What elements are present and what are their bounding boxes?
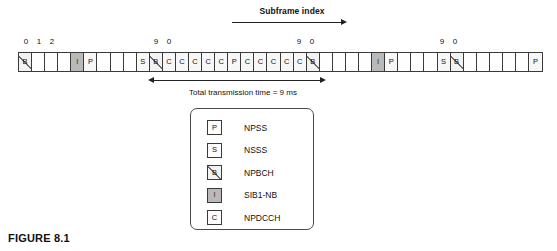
subframe-index-number: 0 [305, 36, 319, 48]
subframe-cell-npss: P [228, 53, 241, 71]
subframe-cell-empty [346, 53, 359, 71]
subframe-cell-npdcch: C [176, 53, 189, 71]
subframe-cell-empty [477, 53, 490, 71]
total-transmission-time-label: Total transmission time = 9 ms [148, 88, 338, 97]
subframe-cell-nsss: S [137, 53, 150, 71]
subframe-cell-npdcch: C [241, 53, 254, 71]
subframe-cell-empty [320, 53, 333, 71]
subframe-cell-npss: P [529, 53, 542, 71]
subframe-index-header: Subframe index [232, 6, 352, 26]
legend-swatch-nsss: S [207, 143, 222, 158]
subframe-cell-empty [333, 53, 346, 71]
subframe-index-number: 0 [19, 36, 33, 48]
legend-label: SIB1-NB [244, 190, 277, 200]
subframe-cell-empty [111, 53, 124, 71]
subframe-cell-npbch: B [451, 53, 464, 71]
subframe-cell-npss: P [385, 53, 398, 71]
legend-item-npdcch: CNPDCCH [207, 207, 313, 228]
subframe-cell-npdcch: C [254, 53, 267, 71]
subframe-index-number: 9 [149, 36, 163, 48]
subframe-cell-empty [424, 53, 437, 71]
legend-label: NPSS [244, 123, 267, 133]
legend-swatch-npbch: B [207, 165, 222, 180]
double-arrow-horizontal-icon [148, 76, 326, 85]
subframe-index-number: 2 [45, 36, 59, 48]
subframe-index-label: Subframe index [232, 6, 352, 16]
legend-swatch-sib1: I [207, 188, 222, 203]
figure-caption: FIGURE 8.1 [8, 232, 70, 244]
legend-item-npbch: BNPBCH [207, 162, 313, 183]
subframe-cell-npbch: B [307, 53, 320, 71]
legend-label: NSSS [244, 145, 267, 155]
legend-swatch-npss: P [207, 120, 222, 135]
subframe-cell-npdcch: C [267, 53, 280, 71]
subframe-cell-npdcch: C [215, 53, 228, 71]
legend: PNPSSSNSSSBNPBCHISIB1-NBCNPDCCH [190, 108, 314, 230]
subframe-cell-npdcch: C [281, 53, 294, 71]
subframe-cell-empty [32, 53, 45, 71]
arrow-shaft [232, 22, 341, 23]
subframe-cell-npdcch: C [189, 53, 202, 71]
subframe-cell-npbch: B [19, 53, 32, 71]
subframe-cell-empty [45, 53, 58, 71]
arrow-head [341, 19, 347, 25]
subframe-cell-nsss: S [438, 53, 451, 71]
subframe-cell-npss: P [84, 53, 97, 71]
subframe-index-number: 9 [292, 36, 306, 48]
subframe-index-number: 9 [435, 36, 449, 48]
subframe-index-number: 0 [162, 36, 176, 48]
subframe-cell-empty [359, 53, 372, 71]
legend-label: NPDCCH [244, 213, 280, 223]
arrow-shaft [153, 80, 321, 81]
legend-item-npss: PNPSS [207, 117, 313, 138]
arrow-right-icon [232, 19, 347, 26]
subframe-cell-empty [411, 53, 424, 71]
subframe-cell-empty [398, 53, 411, 71]
arrow-head-right [320, 77, 326, 83]
subframe-cell-empty [124, 53, 137, 71]
subframe-cell-empty [464, 53, 477, 71]
subframe-cell-empty [503, 53, 516, 71]
subframe-index-numbers: 012909090 [0, 36, 557, 48]
legend-item-sib1-nb: ISIB1-NB [207, 185, 313, 206]
subframe-index-number: 0 [448, 36, 462, 48]
subframe-cell-sib1: I [372, 53, 385, 71]
subframe-cell-sib1: I [71, 53, 84, 71]
subframe-cell-npbch: B [150, 53, 163, 71]
legend-swatch-npdcch: C [207, 210, 222, 225]
subframe-cell-empty [97, 53, 110, 71]
subframe-cell-npdcch: C [294, 53, 307, 71]
subframe-cell-npdcch: C [163, 53, 176, 71]
subframe-cell-npdcch: C [202, 53, 215, 71]
legend-label: NPBCH [244, 168, 274, 178]
subframe-cell-empty [490, 53, 503, 71]
subframe-cell-empty [58, 53, 71, 71]
legend-item-nsss: SNSSS [207, 140, 313, 161]
total-transmission-time-annotation: Total transmission time = 9 ms [148, 76, 338, 97]
subframe-index-number: 1 [32, 36, 46, 48]
subframe-timeline: BIPSBCCCCCPCCCCCBIPSBP [18, 52, 543, 72]
subframe-cell-empty [516, 53, 529, 71]
